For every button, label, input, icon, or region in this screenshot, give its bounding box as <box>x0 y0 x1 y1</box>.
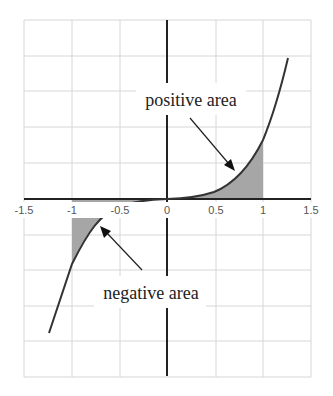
tick-label: -1.5 <box>15 204 34 216</box>
cubic-area-diagram: -1.5 -1 -0.5 0 0.5 1 1.5 positive area n… <box>0 0 333 396</box>
tick-label: 1 <box>260 204 266 216</box>
tick-label: 0 <box>164 204 170 216</box>
tick-label: -1 <box>67 204 77 216</box>
positive-area-shading <box>167 140 263 199</box>
positive-area-label: positive area <box>145 90 236 110</box>
tick-label: -0.5 <box>111 204 130 216</box>
negative-arrow-icon <box>100 226 142 270</box>
tick-label: 0.5 <box>208 204 223 216</box>
tick-label: 1.5 <box>303 204 318 216</box>
negative-area-label: negative area <box>103 283 198 303</box>
